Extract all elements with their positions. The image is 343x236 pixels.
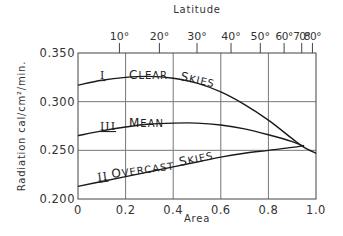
curve-numeral-i: I xyxy=(100,69,105,82)
data-curves: ICLEARSKIESIIIMEANIIOVERCASTSKIES xyxy=(78,68,316,186)
y-tick-label: 0.250 xyxy=(40,143,75,157)
latitude-tick-label: 80° xyxy=(304,30,321,42)
x-tick-label: 0.2 xyxy=(116,203,136,217)
latitude-tick-label: 20° xyxy=(150,30,170,43)
curve-label-overcast: OVERCAST xyxy=(110,158,175,181)
x-axis-title: Area xyxy=(184,213,210,224)
y-tick-label: 0.300 xyxy=(40,95,75,109)
y-tick-label: 0.200 xyxy=(40,192,75,206)
x-tick-label: 0 xyxy=(74,203,82,217)
latitude-tick-label: 60° xyxy=(276,30,293,42)
latitude-tick-label: 10° xyxy=(110,30,130,43)
x-tick-label: 0.6 xyxy=(211,203,231,217)
radiation-chart: 00.20.40.60.81.00.2000.2500.3000.35010°2… xyxy=(0,0,343,236)
curve-label-skies: SKIES xyxy=(179,69,216,90)
latitude-tick-label: 30° xyxy=(187,30,207,43)
curve-numeral-iii: III xyxy=(100,120,116,133)
latitude-tick-label: 40° xyxy=(221,30,241,43)
y-tick-label: 0.350 xyxy=(40,46,75,60)
latitude-axis-title: Latitude xyxy=(173,4,221,15)
x-tick-label: 0.8 xyxy=(259,203,279,217)
x-tick-label: 1.0 xyxy=(306,203,326,217)
curve-numeral-ii: II xyxy=(97,170,109,184)
curve-label-overcast-skies: SKIES xyxy=(178,148,215,169)
curve-label-mean: MEAN xyxy=(129,116,164,130)
x-tick-label: 0.4 xyxy=(163,203,183,217)
latitude-tick-label: 50° xyxy=(251,30,271,43)
curve-i xyxy=(78,76,316,153)
curve-label-clear: CLEAR xyxy=(129,68,168,82)
y-axis-title: Radiation cal/cm²/min. xyxy=(16,61,27,191)
